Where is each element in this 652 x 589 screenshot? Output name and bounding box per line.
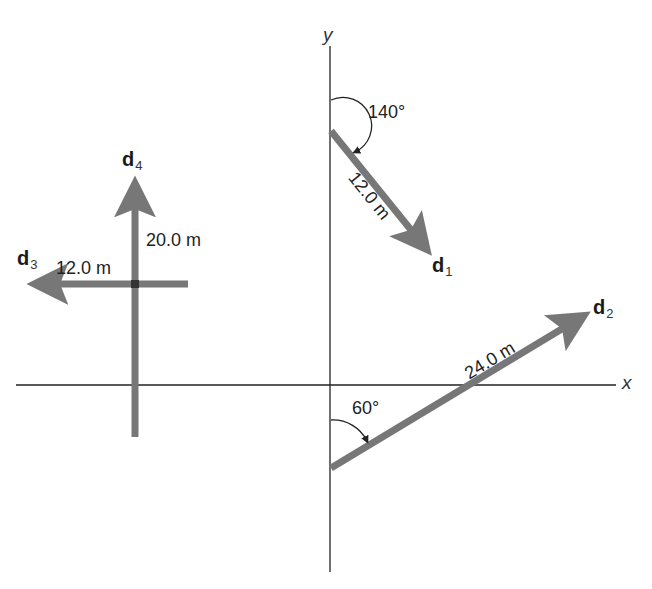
vector-label-d2: d2 <box>593 296 613 321</box>
magnitude-label-d4: 20.0 m <box>146 230 201 251</box>
vector-name-d3: d <box>17 247 29 269</box>
vector-name-d1: d <box>432 254 444 276</box>
vector-label-d4: d4 <box>122 148 142 173</box>
vector-subscript-d3: 3 <box>30 257 37 272</box>
vector-d2 <box>331 318 580 468</box>
vector-subscript-d2: 2 <box>606 306 613 321</box>
vector-d1 <box>331 131 424 246</box>
magnitude-label-d3: 12.0 m <box>56 258 111 279</box>
d3-d4-intersection <box>131 280 139 288</box>
angle-arc-60 <box>331 420 367 441</box>
vector-subscript-d4: 4 <box>135 158 142 173</box>
vector-name-d2: d <box>593 296 605 318</box>
vector-diagram: y x 140° 12.0 m d1 d2 24.0 m 60° d3 12.0… <box>0 0 652 589</box>
angle-label-d1: 140° <box>368 102 405 123</box>
vector-subscript-d1: 1 <box>445 264 452 279</box>
x-axis-label: x <box>622 372 632 394</box>
diagram-canvas <box>0 0 652 589</box>
vector-label-d1: d1 <box>432 254 452 279</box>
vector-label-d3: d3 <box>17 247 37 272</box>
vector-name-d4: d <box>122 148 134 170</box>
angle-label-d2: 60° <box>352 398 379 419</box>
y-axis-label: y <box>323 24 333 46</box>
